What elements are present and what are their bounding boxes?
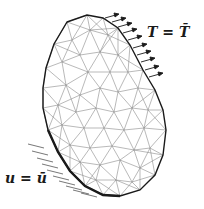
hatch-line: [53, 176, 69, 180]
hatch-line: [42, 164, 58, 168]
mesh-edge: [110, 72, 118, 92]
mesh-edge: [58, 105, 76, 112]
mesh-edge: [90, 28, 118, 30]
mesh-edge: [80, 52, 100, 55]
mesh-edge: [85, 165, 100, 186]
mesh-edge: [43, 105, 58, 108]
hatch-line: [59, 181, 75, 185]
mesh-edge: [100, 28, 118, 52]
mesh-edge: [70, 128, 84, 145]
mesh-edge: [76, 108, 96, 112]
mesh-edge: [132, 108, 144, 128]
mesh-edge: [128, 72, 138, 88]
arrow-head-icon: [127, 22, 132, 26]
mesh-edge: [62, 62, 66, 85]
mesh-edge: [120, 160, 132, 182]
hatch-line: [37, 158, 53, 162]
mesh-edge: [134, 148, 150, 150]
mesh-edge: [132, 182, 140, 190]
mesh-edge: [128, 70, 143, 72]
mesh-edge: [118, 92, 132, 108]
arrow-head-icon: [158, 72, 163, 76]
hatch-line: [47, 170, 63, 174]
displacement-boundary-label: u = ū: [5, 170, 47, 186]
mesh-edge: [134, 128, 144, 150]
mesh-edge: [138, 88, 148, 110]
mesh-edge: [90, 30, 100, 52]
mesh-edge: [85, 180, 96, 186]
mesh-edge: [100, 88, 114, 112]
mesh-edge: [140, 168, 155, 175]
mesh-edge: [96, 108, 114, 112]
mesh-edge: [114, 108, 132, 112]
mesh-edge: [103, 180, 116, 195]
mesh-edge: [144, 128, 166, 130]
mesh-edge: [118, 72, 128, 92]
mesh-edge: [104, 128, 124, 130]
mesh-edge: [80, 88, 100, 95]
mesh-edge: [96, 88, 100, 108]
mesh-edge: [66, 72, 88, 85]
mesh-edge: [112, 146, 120, 160]
mesh-edge: [90, 146, 112, 148]
mesh-edge: [72, 40, 80, 55]
mesh-edge: [48, 125, 62, 130]
mesh-edge: [62, 112, 76, 125]
mesh-edge: [128, 45, 130, 72]
mesh-edge: [70, 162, 80, 171]
mesh-edge: [112, 146, 134, 150]
mesh-edge: [88, 52, 100, 72]
mesh-edge: [46, 68, 66, 85]
mesh-edge: [84, 128, 90, 148]
arrow-head-icon: [146, 50, 151, 54]
mesh-edge: [96, 108, 104, 128]
mesh-edge: [100, 35, 108, 52]
mesh-edge: [43, 85, 66, 88]
mesh-edge: [116, 160, 120, 180]
mesh-edge: [80, 95, 96, 108]
mesh-edge: [67, 22, 72, 40]
mesh-edge: [124, 128, 144, 130]
mesh-edge: [134, 150, 140, 168]
arrow-head-icon: [121, 17, 126, 21]
mesh-edge: [114, 92, 118, 112]
mesh-edge: [43, 88, 58, 105]
hatch-line: [66, 186, 82, 190]
mesh-edge: [120, 150, 134, 160]
mesh-edge: [118, 55, 128, 72]
mesh-edge: [70, 145, 90, 148]
mesh-edge: [62, 125, 84, 128]
mesh-edge: [90, 148, 100, 165]
arrow-head-icon: [154, 65, 159, 69]
traction-boundary-label: T = T̄: [147, 24, 189, 40]
mesh-edge: [138, 70, 143, 88]
arrow-head-icon: [142, 43, 147, 47]
traction-arrows: [105, 13, 163, 77]
mesh-edge: [88, 72, 100, 88]
mesh-edge: [48, 105, 58, 130]
mesh-edge: [80, 148, 90, 162]
mesh-edge: [80, 30, 90, 55]
mesh-edge: [90, 128, 104, 148]
mesh-edge: [132, 108, 148, 110]
arrow-head-icon: [150, 57, 155, 61]
mesh-edge: [104, 128, 112, 146]
mesh-edge: [144, 110, 163, 128]
mesh-edge: [76, 95, 80, 112]
mesh-edge: [124, 130, 134, 150]
mesh-edge: [150, 148, 155, 175]
mesh-edge: [118, 88, 138, 92]
mesh-edge: [84, 108, 96, 128]
mesh-edge: [108, 28, 118, 35]
mesh-edge: [118, 45, 130, 55]
mesh-edge: [124, 108, 132, 130]
mesh-edge: [96, 165, 100, 180]
mesh-edge: [114, 112, 124, 130]
mesh-edge: [108, 35, 118, 55]
arrow-head-icon: [114, 13, 119, 17]
mesh-edge: [76, 112, 84, 128]
mesh-edge: [100, 165, 116, 180]
mesh-edge: [58, 145, 70, 152]
arrow-head-icon: [132, 28, 137, 32]
mesh-edge: [112, 130, 124, 146]
